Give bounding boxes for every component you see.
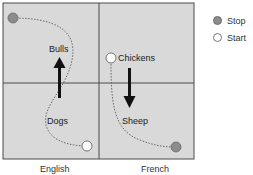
filled-circle-icon xyxy=(213,16,222,25)
english-start-marker xyxy=(82,141,92,151)
legend-label-stop: Stop xyxy=(227,16,246,26)
english-stop-marker xyxy=(8,13,18,23)
legend-item-start: Start xyxy=(213,29,246,46)
french-start-marker xyxy=(106,53,116,63)
label-chickens: Chickens xyxy=(118,53,156,63)
french-stop-marker xyxy=(171,142,181,152)
label-dogs: Dogs xyxy=(47,116,69,126)
legend-item-stop: Stop xyxy=(213,12,246,29)
open-circle-icon xyxy=(213,33,222,42)
column-label-french: French xyxy=(141,164,169,174)
label-bulls: Bulls xyxy=(49,44,69,54)
legend-label-start: Start xyxy=(227,33,246,43)
legend: Stop Start xyxy=(213,12,246,46)
label-sheep: Sheep xyxy=(122,116,148,126)
column-label-english: English xyxy=(40,164,70,174)
